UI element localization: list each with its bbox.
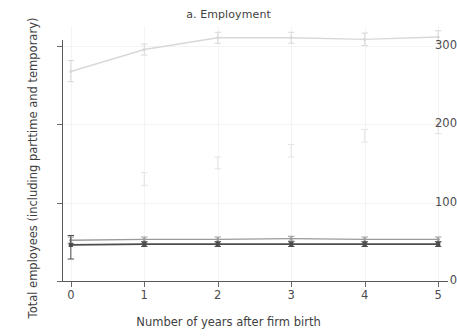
y-tick-mark xyxy=(57,281,62,282)
x-tick-label: 1 xyxy=(129,288,159,302)
series-line xyxy=(71,37,438,72)
data-point-marker xyxy=(290,237,293,240)
x-tick-mark xyxy=(71,282,72,287)
data-point-marker xyxy=(436,242,440,246)
y-tick-mark xyxy=(57,203,62,204)
series-sparse-upper-estimates xyxy=(141,121,441,185)
data-point-marker xyxy=(69,243,73,247)
series-line xyxy=(71,239,438,241)
data-point-marker xyxy=(69,70,72,73)
x-tick-mark xyxy=(144,282,145,287)
x-tick-label: 4 xyxy=(350,288,380,302)
x-tick-label: 2 xyxy=(203,288,233,302)
data-point-marker xyxy=(437,238,440,241)
x-tick-mark xyxy=(365,282,366,287)
y-tick-mark xyxy=(57,46,62,47)
data-point-marker xyxy=(289,242,293,246)
y-tick-mark xyxy=(57,124,62,125)
data-point-marker xyxy=(143,238,146,241)
y-tick-label: 100 xyxy=(411,195,457,209)
x-tick-mark xyxy=(438,282,439,287)
x-tick-label: 0 xyxy=(56,288,86,302)
x-tick-label: 3 xyxy=(276,288,306,302)
series-average-firms-upper xyxy=(68,236,442,243)
x-tick-mark xyxy=(218,282,219,287)
chart-figure: a. Employment Total employees (including… xyxy=(0,0,457,336)
data-point-marker xyxy=(216,242,220,246)
x-tick-mark xyxy=(291,282,292,287)
y-tick-label: 300 xyxy=(411,38,457,52)
data-point-marker xyxy=(290,36,293,39)
data-point-marker xyxy=(363,38,366,41)
data-point-marker xyxy=(216,36,219,39)
data-point-marker xyxy=(363,242,367,246)
data-point-marker xyxy=(142,242,146,246)
data-point-marker xyxy=(363,238,366,241)
y-tick-label: 200 xyxy=(411,116,457,130)
series-high-growth-firms xyxy=(68,31,442,82)
series-line xyxy=(71,244,438,245)
data-point-marker xyxy=(216,238,219,241)
x-tick-label: 5 xyxy=(423,288,453,302)
data-point-marker xyxy=(143,48,146,51)
y-tick-label: 0 xyxy=(411,273,457,287)
series-layer xyxy=(0,0,457,336)
